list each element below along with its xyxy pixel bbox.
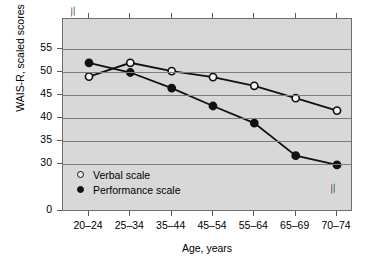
x-tick-mark-top xyxy=(212,13,213,18)
data-point xyxy=(168,85,175,92)
data-point xyxy=(85,73,92,80)
x-tick-label: 70–74 xyxy=(313,219,359,231)
x-tick-mark-top xyxy=(88,13,89,18)
y-tick-mark xyxy=(57,210,62,211)
legend-label: Performance scale xyxy=(93,184,181,196)
data-point xyxy=(292,152,299,159)
gridline xyxy=(63,95,351,96)
gridline xyxy=(63,164,351,165)
x-tick-label: 35–44 xyxy=(148,219,194,231)
legend-label: Verbal scale xyxy=(93,169,150,181)
data-point xyxy=(209,102,216,109)
y-tick-mark xyxy=(57,94,62,95)
x-tick-mark xyxy=(129,211,130,216)
y-tick-mark xyxy=(57,48,62,49)
data-point xyxy=(251,82,258,89)
legend-item-verbal: Verbal scale xyxy=(77,167,181,182)
x-tick-mark xyxy=(88,211,89,216)
y-tick-label: 45 xyxy=(22,87,52,99)
x-axis-title: Age, years xyxy=(62,242,352,254)
x-tick-label: 20–24 xyxy=(65,219,111,231)
chart-figure: WAIS-R, scaled scores Verbal scale Perfo… xyxy=(0,0,386,266)
y-tick-mark xyxy=(57,163,62,164)
x-tick-mark-top xyxy=(336,13,337,18)
y-tick-mark xyxy=(57,117,62,118)
gridline xyxy=(63,141,351,142)
x-tick-mark-top xyxy=(171,13,172,18)
x-tick-mark xyxy=(212,211,213,216)
y-tick-label: 0 xyxy=(22,203,52,215)
x-tick-mark-top xyxy=(295,13,296,18)
y-tick-label: 40 xyxy=(22,110,52,122)
y-tick-mark xyxy=(57,71,62,72)
data-point xyxy=(127,59,134,66)
y-tick-mark xyxy=(57,140,62,141)
x-tick-label: 55–64 xyxy=(230,219,276,231)
gridline xyxy=(63,49,351,50)
x-tick-mark xyxy=(253,211,254,216)
open-circle-icon xyxy=(77,171,93,178)
x-tick-mark xyxy=(295,211,296,216)
x-tick-mark xyxy=(336,211,337,216)
gridline xyxy=(63,72,351,73)
data-point xyxy=(209,74,216,81)
x-tick-mark-top xyxy=(129,13,130,18)
data-point xyxy=(333,107,340,114)
y-tick-label: 35 xyxy=(22,133,52,145)
y-tick-label: 50 xyxy=(22,64,52,76)
chart-legend: Verbal scale Performance scale xyxy=(77,167,181,197)
y-tick-label: 30 xyxy=(22,156,52,168)
x-tick-label: 25–34 xyxy=(106,219,152,231)
data-point xyxy=(251,120,258,127)
plot-area: Verbal scale Performance scale xyxy=(62,18,352,211)
x-tick-mark xyxy=(171,211,172,216)
data-point xyxy=(85,59,92,66)
x-tick-mark-top xyxy=(253,13,254,18)
filled-circle-icon xyxy=(77,186,93,193)
y-tick-label: 55 xyxy=(22,41,52,53)
x-tick-label: 45–54 xyxy=(189,219,235,231)
legend-item-performance: Performance scale xyxy=(77,182,181,197)
x-tick-label: 65–69 xyxy=(272,219,318,231)
gridline xyxy=(63,118,351,119)
